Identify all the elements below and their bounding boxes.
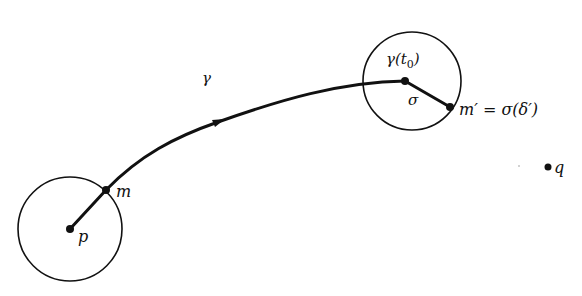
point-gamma-t0 bbox=[401, 77, 409, 85]
label-q: q bbox=[554, 160, 564, 176]
label-gamma-t0: γ(t0) bbox=[386, 52, 420, 70]
point-q bbox=[545, 164, 552, 171]
label-p: p bbox=[78, 229, 88, 245]
point-m bbox=[102, 186, 110, 194]
diagram-canvas bbox=[0, 0, 582, 296]
label-m-prime-equation: m′ = σ(δ′) bbox=[459, 102, 538, 118]
curve-gamma bbox=[106, 81, 405, 190]
label-gamma-t0-suffix: ) bbox=[414, 50, 420, 68]
label-m: m bbox=[116, 184, 131, 200]
label-gamma-t0-prefix: γ(t bbox=[386, 50, 407, 68]
label-gamma: γ bbox=[202, 71, 211, 86]
point-m-prime bbox=[446, 103, 454, 111]
point-p bbox=[66, 225, 74, 233]
arrow-head-icon bbox=[212, 119, 225, 127]
speck bbox=[518, 165, 520, 167]
segment-p-m bbox=[70, 190, 106, 229]
label-gamma-t0-sub: 0 bbox=[407, 58, 414, 71]
label-sigma: σ bbox=[408, 93, 418, 108]
